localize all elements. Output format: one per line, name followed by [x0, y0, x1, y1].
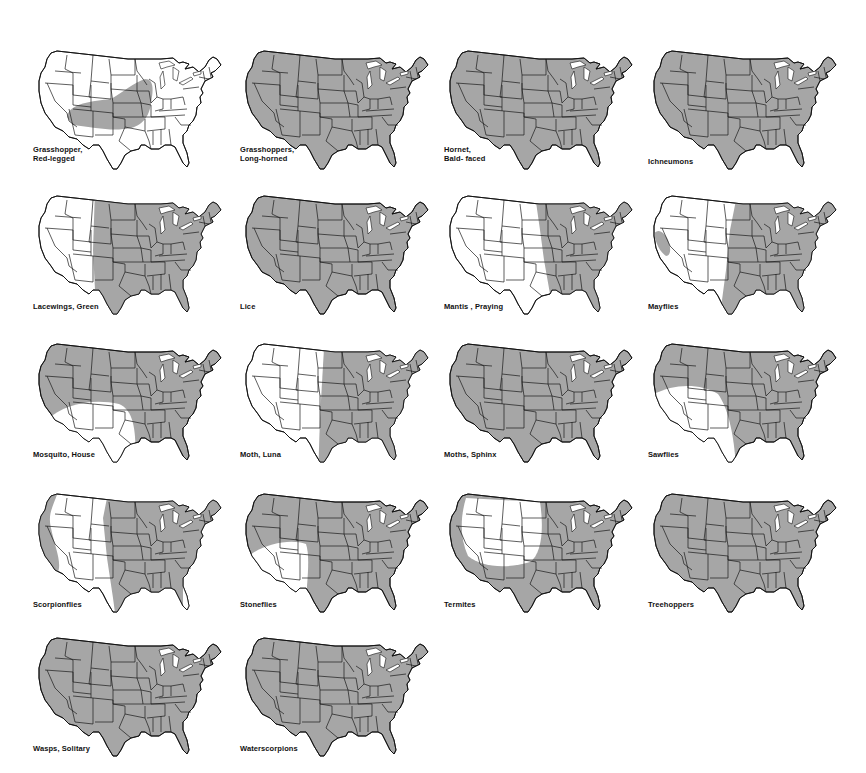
us-map-icon: [648, 45, 838, 175]
us-map-icon: [33, 190, 223, 320]
us-map-icon: [444, 338, 634, 468]
map-label: Grasshoppers,Long-horned: [240, 145, 294, 175]
map-label: Moth, Luna: [240, 450, 281, 468]
map-label: Mosquito, House: [33, 450, 95, 468]
map-termites: Termites: [444, 488, 634, 618]
us-map-icon: [240, 632, 430, 762]
map-label: Mayflies: [648, 302, 678, 320]
map-moth-luna: Moth, Luna: [240, 338, 430, 468]
map-sawflies: Sawflies: [648, 338, 838, 468]
us-map-icon: [240, 190, 430, 320]
map-label: Hornet,Bald- faced: [444, 145, 486, 175]
map-mantis-praying: Mantis , Praying: [444, 190, 634, 320]
map-label: Grasshopper,Red-legged: [33, 145, 83, 175]
map-label: Waterscorpions: [240, 744, 298, 762]
us-map-icon: [240, 338, 430, 468]
map-label: Mantis , Praying: [444, 302, 503, 320]
map-label: Ichneumons: [648, 157, 693, 175]
map-lice: Lice: [240, 190, 430, 320]
us-map-icon: [240, 488, 430, 618]
map-waterscorpions: Waterscorpions: [240, 632, 430, 762]
map-treehoppers: Treehoppers: [648, 488, 838, 618]
us-map-icon: [648, 190, 838, 320]
us-map-icon: [444, 488, 634, 618]
map-label: Moths, Sphinx: [444, 450, 497, 468]
map-grasshoppers-long-horned: Grasshoppers,Long-horned: [240, 45, 430, 175]
map-label: Termites: [444, 600, 476, 618]
map-label: Treehoppers: [648, 600, 694, 618]
us-map-icon: [33, 632, 223, 762]
map-stoneflies: Stoneflies: [240, 488, 430, 618]
us-map-icon: [33, 488, 223, 618]
map-label: Wasps, Solitary: [33, 744, 90, 762]
map-moths-sphinx: Moths, Sphinx: [444, 338, 634, 468]
map-mayflies: Mayflies: [648, 190, 838, 320]
map-wasps-solitary: Wasps, Solitary: [33, 632, 223, 762]
map-grasshopper-red-legged: Grasshopper,Red-legged: [33, 45, 223, 175]
map-label: Scorpionflies: [33, 600, 82, 618]
us-map-icon: [648, 488, 838, 618]
us-map-icon: [33, 338, 223, 468]
map-label: Lacewings, Green: [33, 302, 99, 320]
map-label: Lice: [240, 302, 255, 320]
us-map-icon: [444, 190, 634, 320]
map-mosquito-house: Mosquito, House: [33, 338, 223, 468]
map-hornet-bald-faced: Hornet,Bald- faced: [444, 45, 634, 175]
us-map-icon: [648, 338, 838, 468]
map-ichneumons: Ichneumons: [648, 45, 838, 175]
map-label: Sawflies: [648, 450, 679, 468]
map-label: Stoneflies: [240, 600, 277, 618]
map-scorpionflies: Scorpionflies: [33, 488, 223, 618]
map-lacewings-green: Lacewings, Green: [33, 190, 223, 320]
